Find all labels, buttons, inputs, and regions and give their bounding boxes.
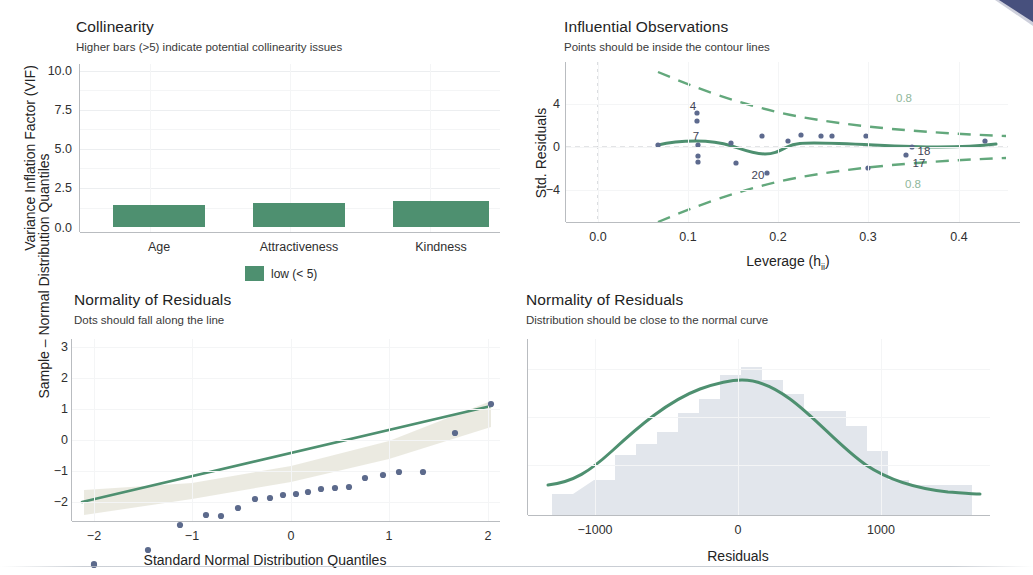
ytick--1: −1 [54, 464, 68, 478]
xtick-age: Age [148, 240, 170, 254]
qq-x-axis [72, 521, 500, 522]
ytick-3: 3 [61, 340, 68, 354]
xtick-0.2: 0.2 [769, 230, 786, 244]
influential-x-axis [566, 222, 1020, 223]
ytick-5.0: 5.0 [55, 142, 72, 156]
contour-label-lower-0.8: 0.8 [905, 178, 921, 190]
point-label-4: 4 [690, 100, 696, 112]
density-title: Normality of Residuals [526, 292, 683, 308]
gridline [566, 190, 1008, 191]
qq-y-ticks: 3 2 1 0 −1 −2 [40, 285, 68, 575]
xtick-0: 0 [735, 523, 742, 537]
gridline [595, 339, 596, 515]
ytick-10.0: 10.0 [48, 64, 72, 78]
influential-x-axis-label: Leverage (hii) [746, 253, 829, 272]
influential-x-axis-label-main: Leverage (h [746, 253, 821, 269]
ytick-1: 1 [61, 402, 68, 416]
xtick--1: −1 [185, 529, 199, 543]
gridline [528, 417, 990, 418]
ytick--4: −4 [546, 183, 560, 197]
figure-canvas: Collinearity Higher bars (>5) indicate p… [0, 0, 1033, 575]
gridline [959, 62, 960, 222]
xtick-0: 0 [288, 529, 295, 543]
xtick-0.4: 0.4 [950, 230, 967, 244]
influential-y-axis [565, 62, 566, 222]
ytick-4: 4 [553, 97, 560, 111]
panel-collinearity: Collinearity Higher bars (>5) indicate p… [0, 0, 516, 290]
ytick-0.0: 0.0 [55, 221, 72, 235]
residual-histogram-fill [552, 367, 972, 515]
qq-y-axis [71, 339, 72, 521]
xtick-1: 1 [386, 529, 393, 543]
page-fold-line [0, 566, 1033, 567]
xtick-kindness: Kindness [415, 240, 466, 254]
xtick--1000: −1000 [577, 523, 612, 537]
density-plot-area [528, 339, 990, 515]
collinearity-legend: low (< 5) [245, 266, 317, 281]
qq-title: Normality of Residuals [74, 292, 231, 308]
collinearity-y-axis [79, 64, 80, 232]
bar-kindness [393, 201, 489, 227]
gridline [868, 62, 869, 222]
density-x-axis [528, 515, 990, 516]
gridline [778, 62, 779, 222]
gridline [566, 147, 1008, 148]
density-plot-svg [528, 339, 990, 515]
gridline [528, 369, 990, 370]
point-label-20: 20 [752, 169, 765, 181]
density-x-axis-label: Residuals [707, 548, 768, 564]
influential-y-ticks: 4 0 −4 [532, 0, 560, 290]
qq-points-layer [72, 339, 500, 521]
gridline [598, 62, 599, 222]
density-subtitle: Distribution should be close to the norm… [526, 314, 768, 327]
xtick-attractiveness: Attractiveness [260, 240, 339, 254]
gridline [528, 465, 990, 466]
xtick-0.3: 0.3 [859, 230, 876, 244]
point-label-7: 7 [693, 130, 699, 142]
influential-x-axis-label-tail: ) [825, 253, 830, 269]
collinearity-subtitle: Higher bars (>5) indicate potential coll… [76, 41, 342, 54]
influential-plot-svg [566, 62, 1008, 222]
legend-swatch-low [245, 266, 264, 281]
bar-age [113, 205, 205, 227]
qq-subtitle: Dots should fall along the line [74, 314, 224, 327]
panel-density-normality: Normality of Residuals Distribution shou… [516, 285, 1033, 575]
panel-influential-observations: Influential Observations Points should b… [516, 0, 1033, 290]
panel-qq-normality: Normality of Residuals Dots should fall … [0, 285, 516, 575]
point-label-18: 18 [918, 145, 931, 157]
xtick--2: −2 [87, 529, 101, 543]
density-y-axis [527, 339, 528, 515]
ytick-7.5: 7.5 [55, 103, 72, 117]
collinearity-title: Collinearity [76, 19, 154, 35]
contour-label-upper-0.8: 0.8 [896, 92, 912, 104]
influential-subtitle: Points should be inside the contour line… [564, 41, 770, 54]
ytick-0: 0 [553, 140, 560, 154]
point-label-17: 17 [913, 157, 926, 169]
bar-attractiveness [253, 203, 345, 227]
ytick--2: −2 [54, 495, 68, 509]
ytick-2: 2 [61, 371, 68, 385]
gridline [881, 339, 882, 515]
xtick-2: 2 [485, 529, 492, 543]
legend-label-low: low (< 5) [271, 267, 317, 281]
gridline [566, 104, 1008, 105]
xtick-1000: 1000 [867, 523, 895, 537]
xtick-0.0: 0.0 [589, 230, 606, 244]
gridline [738, 339, 739, 515]
gridline [688, 62, 689, 222]
collinearity-x-axis [80, 232, 500, 233]
xtick-0.1: 0.1 [679, 230, 696, 244]
ytick-2.5: 2.5 [55, 181, 72, 195]
influential-title: Influential Observations [564, 19, 728, 35]
ytick-0: 0 [61, 433, 68, 447]
collinearity-plot-area [80, 64, 500, 232]
influential-plot-area: 4 7 20 17 18 0.8 0.8 [566, 62, 1008, 222]
qq-plot-area [72, 339, 500, 521]
